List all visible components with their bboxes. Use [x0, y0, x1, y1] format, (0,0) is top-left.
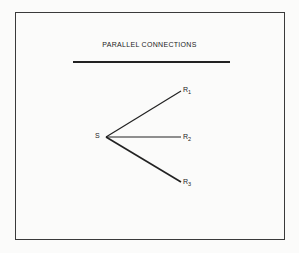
r3-subscript: 3 [188, 181, 191, 187]
r1-subscript: 1 [188, 89, 191, 95]
node-r1-label: R1 [183, 86, 191, 95]
r2-subscript: 2 [188, 136, 191, 142]
connection-lines [0, 0, 299, 253]
node-s-label: S [95, 132, 100, 139]
node-r2-label: R2 [183, 133, 191, 142]
edge-s-r1 [106, 91, 181, 137]
node-r3-label: R3 [183, 178, 191, 187]
edge-s-r3 [106, 137, 181, 182]
